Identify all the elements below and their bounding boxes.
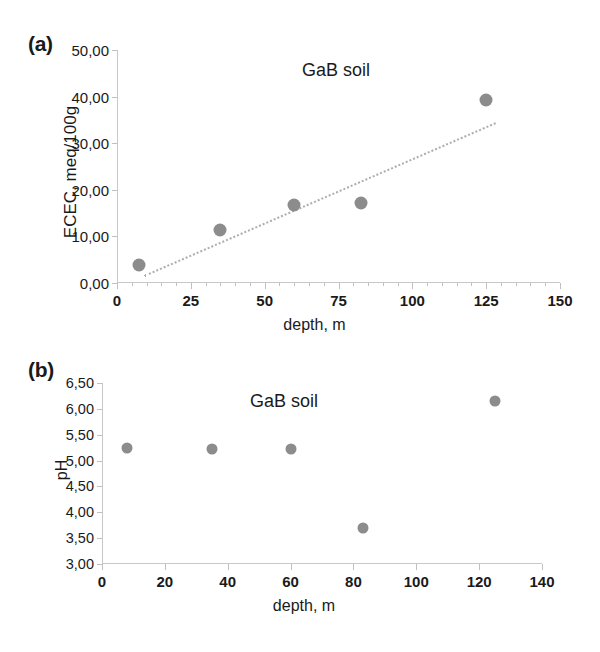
y-axis-line-a [117,50,118,283]
y-tick-label-a: 40,00 [71,88,109,105]
x-minor-tick-a [471,283,472,286]
x-minor-tick-a [235,283,236,286]
x-tick-a [412,283,413,289]
data-point-b [357,522,368,533]
x-minor-tick-a [147,283,148,286]
y-tick-label-b: 5,50 [66,427,94,443]
x-axis-title-b: depth, m [84,597,524,615]
x-minor-tick-a [530,283,531,286]
x-tick-label-b: 140 [529,573,554,590]
x-minor-tick-a [250,283,251,286]
x-tick-b [479,564,480,570]
data-point-a [354,196,367,209]
x-tick-label-a: 100 [400,292,425,309]
x-tick-a [560,283,561,289]
panel-b-ph-vs-depth: (b) pH depth, m GaB soil 3,003,504,004,5… [0,340,600,652]
plot-area-b: pH depth, m GaB soil 3,003,504,004,505,0… [102,383,542,564]
y-tick-b [97,486,102,487]
x-tick-label-b: 0 [98,573,106,590]
x-tick-b [353,564,354,570]
x-tick-label-b: 20 [157,573,174,590]
x-minor-tick-a [220,283,221,286]
x-minor-tick-a [309,283,310,286]
data-point-b [285,444,296,455]
data-point-a [288,198,301,211]
x-tick-a [339,283,340,289]
x-tick-a [486,283,487,289]
plot-area-a: ECEC, meq/100g depth, m GaB soil 0,0010,… [117,50,560,283]
panel-a-letter: (a) [28,32,53,56]
x-minor-tick-a [294,283,295,286]
x-minor-tick-a [161,283,162,286]
y-tick-label-a: 30,00 [71,135,109,152]
y-tick-b [97,538,102,539]
y-tick-label-a: 10,00 [71,228,109,245]
x-minor-tick-a [545,283,546,286]
x-minor-tick-a [442,283,443,286]
y-tick-label-b: 4,50 [66,478,94,494]
x-tick-a [117,283,118,289]
y-tick-b [97,512,102,513]
data-point-b [207,443,218,454]
panel-b-letter: (b) [28,358,54,382]
data-point-a [480,93,493,106]
x-minor-tick-a [398,283,399,286]
x-minor-tick-a [516,283,517,286]
x-tick-label-a: 150 [547,292,572,309]
x-tick-b [542,564,543,570]
y-tick-label-b: 3,00 [66,556,94,572]
x-tick-label-a: 0 [113,292,121,309]
x-tick-label-b: 40 [219,573,236,590]
data-point-b [122,442,133,453]
x-minor-tick-a [324,283,325,286]
x-minor-tick-a [279,283,280,286]
y-tick-a [112,236,117,237]
figure-gab-soil-depth-profiles: (a) ECEC, meq/100g depth, m GaB soil 0,0… [0,0,600,652]
y-tick-b [97,409,102,410]
y-tick-label-b: 6,00 [66,401,94,417]
x-tick-a [191,283,192,289]
y-tick-label-a: 0,00 [80,275,109,292]
y-axis-line-b [102,383,103,564]
y-tick-a [112,50,117,51]
x-tick-label-b: 100 [404,573,429,590]
y-tick-label-a: 50,00 [71,42,109,59]
series-annotation-b: GaB soil [250,391,318,412]
x-tick-label-b: 120 [467,573,492,590]
y-tick-label-b: 5,00 [66,453,94,469]
data-point-a [133,258,146,271]
y-tick-a [112,190,117,191]
panel-a-ecec-vs-depth: (a) ECEC, meq/100g depth, m GaB soil 0,0… [0,0,600,340]
x-minor-tick-a [368,283,369,286]
y-tick-label-a: 20,00 [71,181,109,198]
x-minor-tick-a [132,283,133,286]
x-tick-b [416,564,417,570]
y-tick-label-b: 3,50 [66,530,94,546]
data-point-b [489,396,500,407]
x-minor-tick-a [206,283,207,286]
y-tick-a [112,97,117,98]
trendline-a [144,122,496,277]
x-tick-b [291,564,292,570]
x-axis-line-b [102,563,542,564]
y-tick-b [97,383,102,384]
x-tick-b [102,564,103,570]
x-minor-tick-a [176,283,177,286]
x-tick-a [265,283,266,289]
y-tick-a [112,143,117,144]
x-tick-label-a: 25 [182,292,199,309]
x-minor-tick-a [427,283,428,286]
series-annotation-a: GaB soil [302,60,370,81]
x-axis-title-a: depth, m [93,316,536,334]
x-tick-label-a: 50 [256,292,273,309]
x-minor-tick-a [383,283,384,286]
y-tick-b [97,435,102,436]
x-tick-label-b: 60 [282,573,299,590]
x-tick-b [228,564,229,570]
y-tick-b [97,461,102,462]
y-tick-label-b: 6,50 [66,375,94,391]
x-tick-label-a: 75 [330,292,347,309]
x-tick-b [165,564,166,570]
x-tick-label-a: 125 [474,292,499,309]
x-minor-tick-a [501,283,502,286]
